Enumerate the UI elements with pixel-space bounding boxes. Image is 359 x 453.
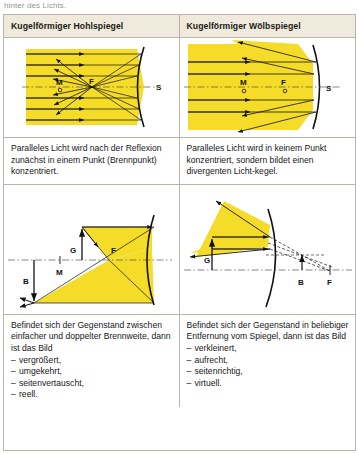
header-cell-concave: Kugelförmiger Hohlspiegel [4, 15, 180, 37]
cell-concave-parallel-diagram: M F S [4, 38, 180, 137]
cell-text-concave-parallel: Paralleles Licht wird nach der Reflexion… [4, 138, 180, 184]
list-item: –seitenrichtig, [187, 366, 350, 378]
bullet-dash: – [11, 389, 19, 401]
bullet-dash: – [187, 378, 195, 390]
label-F: F [111, 246, 116, 255]
label-M: M [240, 78, 247, 87]
label-M: M [56, 78, 63, 87]
list-item: –vergrößert, [11, 355, 173, 367]
diagram-row-image-construction: G F M B [4, 184, 355, 314]
concave-image-properties-list: –vergrößert, –umgekehrt, –seitenvertausc… [11, 355, 173, 401]
list-item: –seitenvertauscht, [11, 378, 173, 390]
list-item: –verkleinert, [187, 343, 350, 355]
label-F: F [89, 77, 94, 86]
list-item: –umgekehrt, [11, 366, 173, 378]
bullet-dash: – [187, 343, 195, 355]
list-item-label: aufrecht, [195, 355, 228, 367]
list-item: –virtuell. [187, 378, 350, 390]
header-label-concave: Kugelförmiger Hohlspiegel [11, 21, 123, 31]
list-item-label: seitenvertauscht, [19, 378, 84, 390]
image-tip-arrows [20, 298, 34, 307]
list-item-label: reell. [19, 389, 38, 401]
header-cell-convex: Kugelförmiger Wölbspiegel [180, 15, 356, 37]
bullet-dash: – [11, 355, 19, 367]
bullet-dash: – [11, 366, 19, 378]
label-S: S [156, 83, 162, 92]
description-convex-parallel: Paralleles Licht wird in keinem Punkt ko… [187, 143, 350, 178]
list-item-label: virtuell. [195, 378, 222, 390]
list-item: –reell. [11, 389, 173, 401]
cell-convex-image-diagram: G B F [180, 185, 356, 314]
list-item-label: umgekehrt, [19, 366, 62, 378]
list-item: –aufrecht, [187, 355, 350, 367]
bullet-dash: – [187, 355, 195, 367]
label-B: B [298, 278, 304, 287]
list-item-label: vergrößert, [19, 355, 61, 367]
label-M: M [56, 268, 63, 277]
header-label-convex: Kugelförmiger Wölbspiegel [187, 21, 301, 31]
label-S: S [326, 84, 332, 93]
description-row-parallel: Paralleles Licht wird nach der Reflexion… [4, 137, 355, 184]
description-concave-image-intro: Befindet sich der Gegenstand zwischen ei… [11, 320, 173, 355]
virtual-ray-extensions [268, 237, 332, 271]
cut-off-header-text: hinter des Lichts. [4, 0, 184, 11]
label-B: B [23, 277, 29, 286]
label-G: G [70, 246, 76, 255]
cell-text-convex-image: Befindet sich der Gegenstand in beliebig… [180, 315, 356, 407]
label-F: F [327, 278, 332, 287]
concave-mirror-image-construction-diagram: G F M B [4, 185, 179, 314]
lower-ray-bundle [34, 248, 154, 303]
comparison-table: Kugelförmiger Hohlspiegel Kugelförmiger … [3, 14, 356, 451]
list-item-label: seitenrichtig, [195, 366, 243, 378]
description-concave-parallel: Paralleles Licht wird nach der Reflexion… [11, 143, 173, 178]
label-F: F [281, 78, 286, 87]
description-convex-image-intro: Befindet sich der Gegenstand in beliebig… [187, 320, 350, 343]
convex-image-properties-list: –verkleinert, –aufrecht, –seitenrichtig,… [187, 343, 350, 389]
convex-mirror-parallel-rays-diagram: M F S [180, 38, 356, 137]
cell-text-concave-image: Befindet sich der Gegenstand zwischen ei… [4, 315, 180, 407]
cell-text-convex-parallel: Paralleles Licht wird in keinem Punkt ko… [180, 138, 356, 184]
list-item-label: verkleinert, [195, 343, 237, 355]
cell-concave-image-diagram: G F M B [4, 185, 180, 314]
table-header-row: Kugelförmiger Hohlspiegel Kugelförmiger … [4, 15, 355, 37]
cell-convex-parallel-diagram: M F S [180, 38, 356, 137]
bullet-dash: – [11, 378, 19, 390]
bullet-dash: – [187, 366, 195, 378]
concave-mirror-parallel-rays-diagram: M F S [4, 38, 179, 137]
description-row-image: Befindet sich der Gegenstand zwischen ei… [4, 314, 355, 407]
convex-mirror-image-construction-diagram: G B F [180, 185, 356, 314]
diagram-row-parallel-rays: M F S [4, 37, 355, 137]
label-G: G [204, 256, 210, 265]
